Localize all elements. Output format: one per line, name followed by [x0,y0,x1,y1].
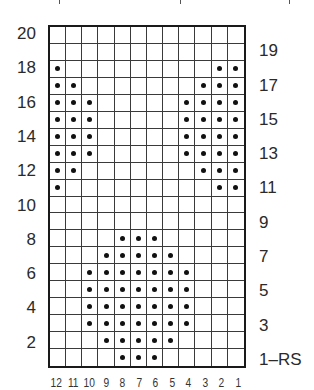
chart-cell-dot [131,281,147,298]
chart-cell-dot [98,264,114,281]
chart-cell-dot [50,163,66,180]
chart-cell-dot [195,163,211,180]
chart-cell-dot [147,247,163,264]
chart-cell [228,44,244,61]
chart-cell [212,264,228,281]
row-label: 12 [6,162,36,179]
chart-cell [163,61,179,78]
chart-cell [179,349,195,366]
chart-cell [115,163,131,180]
chart-cell [50,44,66,61]
chart-cell-dot [82,112,98,129]
chart-cell [195,230,211,247]
chart-cell-dot [147,349,163,366]
chart-cell-dot [163,281,179,298]
chart-cell-dot [50,112,66,129]
column-labels: 121110987654321 [48,375,246,390]
chart-cell-dot [66,163,82,180]
chart-cell [50,197,66,214]
chart-cell-dot [98,281,114,298]
column-label: 10 [82,375,96,390]
chart-cell-dot [50,146,66,163]
chart-cell [147,163,163,180]
chart-cell-dot [212,129,228,146]
chart-cell [212,44,228,61]
chart-cell-dot [147,230,163,247]
chart-cell-dot [115,298,131,315]
chart-cell [212,281,228,298]
chart-cell-dot [195,112,211,129]
chart-cell [98,44,114,61]
chart-cell-dot [147,315,163,332]
chart-cell-dot [131,315,147,332]
chart-cell [82,61,98,78]
row-label: 14 [6,128,36,145]
chart-cell [179,332,195,349]
chart-cell [50,298,66,315]
chart-cell [195,213,211,230]
column-label: 12 [49,375,63,390]
chart-cell [98,95,114,112]
chart-cell-dot [163,332,179,349]
column-label: 1 [231,375,245,390]
chart-cell [228,332,244,349]
chart-cell-dot [195,129,211,146]
chart-cell [179,180,195,197]
chart-cell [179,197,195,214]
chart-cell [179,230,195,247]
chart-cell-dot [82,129,98,146]
chart-cell [163,112,179,129]
chart-cell [163,129,179,146]
chart-cell [163,27,179,44]
chart-cell [115,146,131,163]
chart-cell [147,95,163,112]
chart-cell [131,180,147,197]
chart-cell-dot [228,129,244,146]
chart-cell-dot [115,264,131,281]
chart-cell [212,247,228,264]
chart-cell-dot [179,264,195,281]
chart-cell [163,44,179,61]
chart-cell [147,197,163,214]
chart-cell [131,213,147,230]
chart-cell [82,230,98,247]
row-label: 13 [259,145,278,162]
chart-cell-dot [163,298,179,315]
chart-cell [212,197,228,214]
chart-cell [195,180,211,197]
chart-cell [212,298,228,315]
chart-cell [147,180,163,197]
chart-cell [66,213,82,230]
row-label: 11 [259,179,277,196]
chart-cell [115,78,131,95]
row-label: 2 [6,334,36,351]
chart-cell [228,213,244,230]
chart-cell-dot [66,146,82,163]
chart-cell [147,78,163,95]
chart-cell [212,332,228,349]
chart-cell [195,315,211,332]
chart-cell [98,61,114,78]
chart-cell-dot [179,146,195,163]
chart-cell [66,315,82,332]
chart-cell [98,146,114,163]
chart-cell [147,27,163,44]
chart-cell [82,44,98,61]
column-label: 11 [66,375,80,390]
chart-cell-dot [195,146,211,163]
chart-cell [228,264,244,281]
chart-cell [82,332,98,349]
chart-cell [131,78,147,95]
chart-cell [98,213,114,230]
chart-cell-dot [98,298,114,315]
chart-cell [131,27,147,44]
chart-cell [115,112,131,129]
chart-cell [115,44,131,61]
column-label: 3 [198,375,212,390]
chart-cell-dot [212,112,228,129]
chart-cell-dot [212,61,228,78]
chart-cell [147,213,163,230]
row-label: 17 [259,77,278,94]
chart-cell [50,315,66,332]
row-label: 10 [6,197,36,214]
